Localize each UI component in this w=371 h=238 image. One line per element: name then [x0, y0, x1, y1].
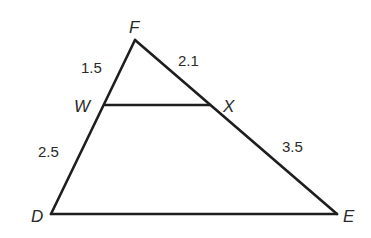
length-label-xe: 3.5: [282, 138, 303, 155]
vertex-label-w: W: [74, 97, 92, 116]
triangle-diagram: F W X D E 1.5 2.1 2.5 3.5: [0, 0, 371, 238]
length-label-fw: 1.5: [81, 59, 102, 76]
length-label-fx: 2.1: [178, 52, 199, 69]
vertex-label-f: F: [129, 18, 141, 37]
vertex-label-x: X: [222, 97, 235, 116]
vertex-label-d: D: [31, 207, 43, 226]
segment-fe: [135, 40, 337, 214]
vertex-label-e: E: [343, 207, 355, 226]
length-label-wd: 2.5: [38, 143, 59, 160]
